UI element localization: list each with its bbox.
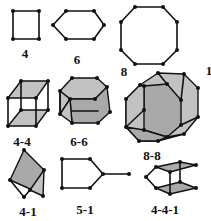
label-6: 6 xyxy=(74,53,81,66)
label-4-4: 4-4 xyxy=(13,135,30,148)
structure-4-ring xyxy=(11,9,41,41)
structure-6-6-prism xyxy=(58,76,112,125)
structure-6-ring xyxy=(51,9,106,41)
label-8: 8 xyxy=(121,65,128,78)
label-8-8: 8-8 xyxy=(143,149,160,162)
label-4-4-1: 4-4-1 xyxy=(151,203,179,216)
cluster-diagram xyxy=(0,0,211,221)
structure-4-4-cube xyxy=(6,79,50,128)
label-6-6: 6-6 xyxy=(70,135,87,148)
structure-8-8-cage xyxy=(124,71,200,143)
structure-4-1 xyxy=(8,148,46,199)
label-4: 4 xyxy=(22,47,29,60)
structure-4-4-1 xyxy=(144,160,198,196)
structure-8-ring xyxy=(119,5,179,66)
label-cut-1: 1 xyxy=(206,64,211,77)
label-5-1: 5-1 xyxy=(76,203,93,216)
structure-5-1 xyxy=(60,157,131,190)
label-4-1: 4-1 xyxy=(19,205,36,218)
